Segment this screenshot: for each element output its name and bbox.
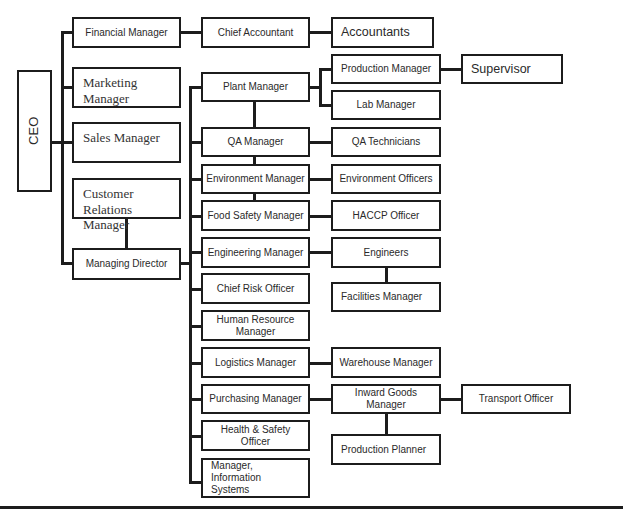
node-customer-relations-manager[interactable]: Customer Relations Manager (72, 178, 181, 219)
node-label: Plant Manager (223, 81, 288, 93)
node-qa-technicians[interactable]: QA Technicians (331, 127, 441, 157)
node-label: Supervisor (471, 62, 531, 77)
connector (309, 31, 332, 34)
node-label: Engineers (363, 247, 408, 259)
node-production-planner[interactable]: Production Planner (331, 434, 441, 465)
node-label: QA Manager (227, 136, 283, 148)
bottom-divider (0, 506, 623, 509)
org-chart: CEO Financial Manager Marketing Manager … (0, 0, 623, 516)
node-label: Accountants (341, 25, 410, 40)
node-label: Engineering Manager (208, 247, 304, 259)
connector (189, 398, 201, 401)
connector (189, 178, 201, 181)
node-production-manager[interactable]: Production Manager (331, 54, 441, 84)
node-health-safety-officer[interactable]: Health & Safety Officer (201, 420, 310, 451)
node-manager-information-systems[interactable]: Manager, Information Systems (201, 458, 310, 498)
connector (309, 398, 332, 401)
node-label: Marketing Manager (83, 75, 143, 106)
node-label: Production Planner (341, 444, 426, 456)
node-label: CEO (27, 117, 43, 145)
node-label: Environment Officers (339, 173, 432, 185)
node-label: Purchasing Manager (209, 393, 301, 405)
connector (61, 31, 64, 265)
node-financial-manager[interactable]: Financial Manager (72, 17, 181, 48)
node-food-safety-manager[interactable]: Food Safety Manager (201, 200, 310, 231)
node-label: Health & Safety Officer (206, 424, 305, 448)
node-label: Facilities Manager (341, 291, 422, 303)
node-label: Inward Goods Manager (336, 387, 436, 411)
node-human-resource-manager[interactable]: Human Resource Manager (201, 310, 310, 341)
connector (385, 266, 388, 283)
node-label: HACCP Officer (353, 210, 420, 222)
node-inward-goods-manager[interactable]: Inward Goods Manager (331, 384, 441, 414)
node-ceo[interactable]: CEO (17, 70, 52, 192)
connector (309, 141, 332, 144)
node-sales-manager[interactable]: Sales Manager (72, 122, 181, 163)
node-label: Manager, Information Systems (211, 460, 301, 496)
node-purchasing-manager[interactable]: Purchasing Manager (201, 384, 310, 414)
connector (189, 86, 192, 483)
node-chief-accountant[interactable]: Chief Accountant (201, 17, 310, 48)
connector (440, 398, 462, 401)
node-label: Warehouse Manager (339, 357, 432, 369)
connector (309, 215, 332, 218)
node-label: Logistics Manager (215, 357, 296, 369)
connector (189, 141, 201, 144)
node-engineers[interactable]: Engineers (331, 237, 441, 268)
connector (180, 31, 202, 34)
connector (189, 435, 201, 438)
connector (309, 178, 332, 181)
connector (253, 100, 256, 128)
node-marketing-manager[interactable]: Marketing Manager (72, 67, 181, 108)
node-managing-director[interactable]: Managing Director (72, 248, 181, 280)
node-qa-manager[interactable]: QA Manager (201, 127, 310, 157)
connector (189, 251, 201, 254)
node-transport-officer[interactable]: Transport Officer (461, 384, 571, 414)
node-environment-manager[interactable]: Environment Manager (201, 164, 310, 194)
node-label: Chief Accountant (218, 27, 294, 39)
node-facilities-manager[interactable]: Facilities Manager (331, 282, 441, 312)
connector (309, 362, 332, 365)
node-label: Production Manager (341, 63, 431, 75)
node-lab-manager[interactable]: Lab Manager (331, 90, 441, 120)
node-label: Financial Manager (85, 27, 167, 39)
node-supervisor[interactable]: Supervisor (461, 54, 563, 84)
connector (189, 362, 201, 365)
node-label: Managing Director (86, 258, 168, 270)
connector (189, 325, 201, 328)
node-label: Lab Manager (357, 99, 416, 111)
connector (189, 86, 201, 89)
connector (189, 288, 201, 291)
node-logistics-manager[interactable]: Logistics Manager (201, 347, 310, 378)
node-label: Sales Manager (83, 130, 160, 146)
node-label: Human Resource Manager (216, 314, 296, 338)
connector (309, 251, 332, 254)
node-label: Chief Risk Officer (217, 283, 295, 295)
connector (385, 412, 388, 435)
node-haccp-officer[interactable]: HACCP Officer (331, 200, 441, 231)
connector (319, 68, 322, 106)
node-label: QA Technicians (352, 136, 421, 148)
connector (440, 68, 462, 71)
connector (189, 215, 201, 218)
node-label: Customer Relations Manager (83, 186, 175, 233)
node-label: Environment Manager (206, 173, 304, 185)
node-label: Transport Officer (479, 393, 553, 405)
node-plant-manager[interactable]: Plant Manager (201, 72, 310, 102)
node-label: Food Safety Manager (207, 210, 303, 222)
connector (189, 481, 201, 484)
node-accountants[interactable]: Accountants (331, 17, 434, 48)
node-environment-officers[interactable]: Environment Officers (331, 164, 441, 194)
node-chief-risk-officer[interactable]: Chief Risk Officer (201, 273, 310, 304)
node-warehouse-manager[interactable]: Warehouse Manager (331, 347, 441, 378)
node-engineering-manager[interactable]: Engineering Manager (201, 237, 310, 268)
